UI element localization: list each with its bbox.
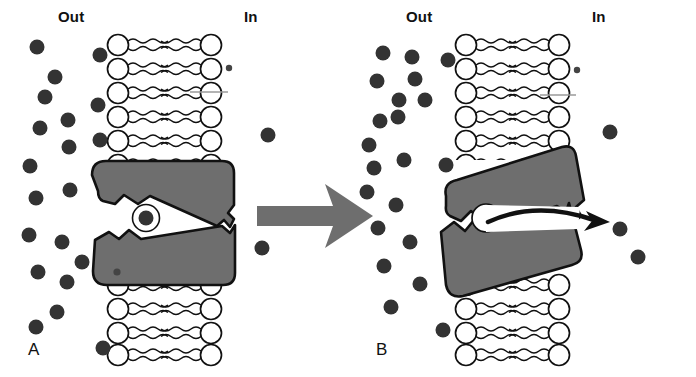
- panel-b: Out In B: [348, 0, 696, 377]
- transport-diagram: Out In A: [0, 0, 696, 377]
- solute-particles-outside-a: [22, 40, 111, 356]
- solute-speck: [574, 67, 580, 73]
- bound-solute-a: [139, 211, 154, 226]
- carrier-protein-a: [92, 161, 235, 285]
- bilayer-lower-a: [108, 275, 222, 366]
- panel-b-graphics: [348, 0, 696, 377]
- solute-speck: [226, 65, 232, 71]
- solute-speck: [113, 268, 120, 275]
- transition-arrow: [255, 178, 375, 254]
- solute-particles-inside-b: [603, 125, 646, 265]
- carrier-protein-b: [441, 146, 584, 296]
- bilayer-upper-a: [108, 35, 222, 176]
